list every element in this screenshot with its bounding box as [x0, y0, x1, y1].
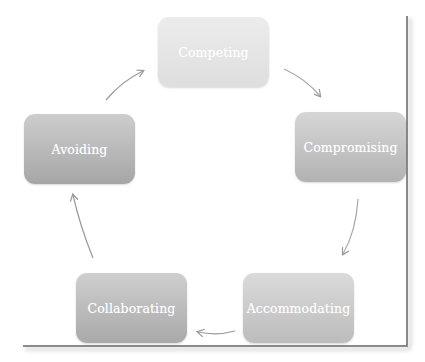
node-collaborating: Collaborating [76, 273, 187, 343]
arrow-competing-to-compromising [284, 69, 320, 96]
node-avoiding: Avoiding [24, 114, 135, 184]
node-label-collaborating: Collaborating [88, 301, 176, 316]
node-label-avoiding: Avoiding [52, 142, 108, 157]
node-label-accommodating: Accommodating [247, 301, 351, 316]
node-accommodating: Accommodating [243, 273, 354, 343]
node-compromising: Compromising [295, 112, 406, 182]
arrow-accommodating-to-collaborating [198, 331, 235, 334]
arrow-compromising-to-accommodating [343, 199, 358, 254]
arrow-avoiding-to-competing [106, 71, 143, 100]
node-label-compromising: Compromising [304, 140, 398, 155]
node-competing: Competing [158, 17, 269, 87]
arrow-collaborating-to-avoiding [73, 195, 93, 258]
node-label-competing: Competing [178, 45, 248, 60]
frame-border-right [406, 16, 408, 346]
frame-border-bottom [23, 345, 408, 347]
